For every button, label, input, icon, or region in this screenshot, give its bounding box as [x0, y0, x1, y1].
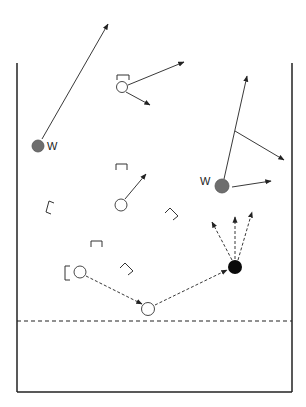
bracket-icon	[91, 241, 102, 247]
arrow-long	[42, 24, 108, 139]
open-player-top	[117, 62, 185, 105]
field-boundary	[17, 63, 292, 392]
bracket-icon	[120, 263, 133, 275]
bracket-icon	[116, 164, 127, 170]
black-player-icon	[228, 260, 242, 274]
bracket-icon	[117, 75, 129, 80]
open-player-lower-left	[65, 266, 142, 304]
open-player-middle	[115, 164, 146, 211]
w-player-right: W	[200, 76, 284, 193]
open-player-bottom	[142, 270, 228, 316]
bracket-icon	[165, 208, 178, 220]
diagram-canvas: W W	[0, 0, 306, 407]
bracket-icon	[65, 266, 70, 280]
gray-player-icon	[32, 140, 44, 152]
w-label: W	[47, 140, 58, 152]
black-player	[212, 212, 252, 274]
w-player-left: W	[32, 24, 108, 152]
w-label: W	[200, 175, 211, 187]
bracket-icon	[46, 201, 54, 214]
gray-player-icon	[215, 179, 229, 193]
